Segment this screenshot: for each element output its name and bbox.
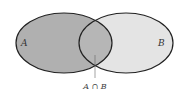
venn-diagram: A B A ∩ B [0,0,181,95]
set-b-label: B [157,38,165,48]
intersection-label: A ∩ B [82,82,107,91]
set-a-label: A [20,38,28,48]
